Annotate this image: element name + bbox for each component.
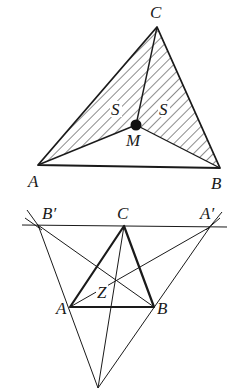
label-b-2: B [157,299,168,318]
label-a-2: A [55,299,67,318]
geometry-diagram: C A B M S S B′ C A′ A B Z [0,0,242,390]
label-c: C [150,3,162,22]
figure-1-triangle-with-point-m: C A B M S S [27,3,222,193]
figure-2-anticomplementary-triangle: B′ C A′ A B Z [22,204,227,388]
label-s-right: S [159,100,168,119]
label-a: A [27,172,39,191]
label-b: B [211,174,222,193]
label-s-left: S [111,100,120,119]
point-m-dot [131,120,142,131]
label-z: Z [97,283,107,302]
label-m: M [125,131,141,150]
label-a-prime: A′ [199,204,214,223]
label-c-2: C [117,204,129,223]
label-b-prime: B′ [42,204,56,223]
